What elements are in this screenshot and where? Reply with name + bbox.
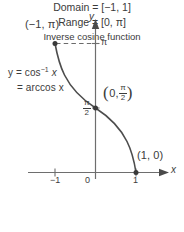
fraction-denominator: 2 bbox=[83, 109, 91, 117]
y-tick-label-pi-half: π 2 bbox=[83, 99, 91, 118]
fraction-pi-over-2-inline: π 2 bbox=[119, 84, 127, 103]
x-tick-label-neg1: −1 bbox=[50, 176, 60, 185]
point-label-one-zero: (1, 0) bbox=[137, 150, 163, 161]
point-marker-neg1-pi bbox=[53, 41, 58, 46]
equation-line-2: = arccos x bbox=[8, 81, 64, 96]
fraction-denominator: 2 bbox=[119, 94, 127, 102]
point-label-neg1-pi: (−1, π) bbox=[25, 19, 59, 30]
point-label-x-part: 0, bbox=[109, 88, 119, 99]
equation-label: y = cos−1 x = arccos x bbox=[8, 66, 64, 95]
x-tick-label-one: 1 bbox=[133, 176, 138, 185]
inverse-cosine-figure: y x −1 0 1 π π 2 (−1, π) (1, 0) ( 0, π 2… bbox=[0, 0, 184, 232]
plot-canvas bbox=[0, 0, 184, 232]
close-paren: ) bbox=[127, 86, 133, 100]
y-axis-label: y bbox=[89, 12, 94, 22]
point-label-zero-pi-half: ( 0, π 2 ) bbox=[103, 84, 133, 103]
x-axis-label: x bbox=[171, 165, 176, 175]
fraction-numerator: π bbox=[119, 84, 127, 92]
equation-line-1: y = cos−1 x bbox=[8, 66, 64, 81]
x-tick-label-zero: 0 bbox=[85, 176, 90, 185]
y-tick-label-pi: π bbox=[101, 38, 107, 47]
point-marker-zero-pihalf bbox=[93, 106, 98, 111]
equation-variable: x bbox=[49, 67, 57, 78]
equation-lead: y = cos bbox=[8, 67, 41, 78]
fraction-pi-over-2: π 2 bbox=[83, 99, 91, 118]
equation-exponent: −1 bbox=[41, 66, 49, 73]
fraction-numerator: π bbox=[83, 99, 91, 107]
x-axis-arrowhead bbox=[159, 169, 169, 176]
